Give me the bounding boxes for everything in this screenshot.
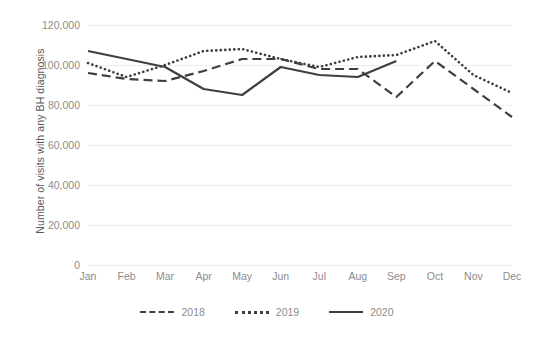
y-axis-tick-label: 100,000 [10, 59, 80, 71]
x-axis-tick-label: Jan [68, 270, 108, 282]
x-axis-tick-label: Feb [107, 270, 147, 282]
x-axis-tick-label: Jul [299, 270, 339, 282]
line-chart: Number of visits with any BH diagnosis 0… [0, 0, 534, 355]
y-axis-tick-label: 80,000 [10, 99, 80, 111]
x-axis-tick-label: Dec [492, 270, 532, 282]
legend-swatch-icon [140, 311, 174, 313]
legend-item-2020[interactable]: 2020 [329, 306, 393, 318]
legend-item-2019[interactable]: 2019 [235, 306, 299, 318]
x-axis-tick-label: Jun [261, 270, 301, 282]
y-axis-tick-label: 20,000 [10, 219, 80, 231]
x-axis-tick-label: Mar [145, 270, 185, 282]
legend-label: 2019 [276, 306, 299, 318]
x-axis-tick-label: Nov [453, 270, 493, 282]
legend-swatch-icon [329, 311, 363, 313]
series-line-2020 [88, 51, 396, 95]
legend-item-2018[interactable]: 2018 [140, 306, 204, 318]
x-axis-tick-label: Aug [338, 270, 378, 282]
x-axis-tick-label: Sep [376, 270, 416, 282]
legend-swatch-icon [235, 311, 269, 314]
x-axis-tick-label: Apr [184, 270, 224, 282]
x-axis-tick-label: May [222, 270, 262, 282]
series-lines [88, 25, 512, 265]
legend-label: 2020 [370, 306, 393, 318]
y-axis-tick-labels: 020,00040,00060,00080,000100,000120,000 [10, 25, 80, 265]
x-axis-tick-label: Oct [415, 270, 455, 282]
y-axis-tick-label: 60,000 [10, 139, 80, 151]
chart-legend: 201820192020 [0, 306, 534, 318]
y-axis-tick-label: 40,000 [10, 179, 80, 191]
series-line-2018 [88, 59, 512, 117]
y-axis-tick-label: 120,000 [10, 19, 80, 31]
series-line-2019 [88, 41, 512, 93]
gridline [88, 265, 512, 266]
legend-label: 2018 [181, 306, 204, 318]
x-axis-tick-labels: JanFebMarAprMayJunJulAugSepOctNovDec [88, 270, 512, 290]
plot-area [88, 25, 512, 265]
